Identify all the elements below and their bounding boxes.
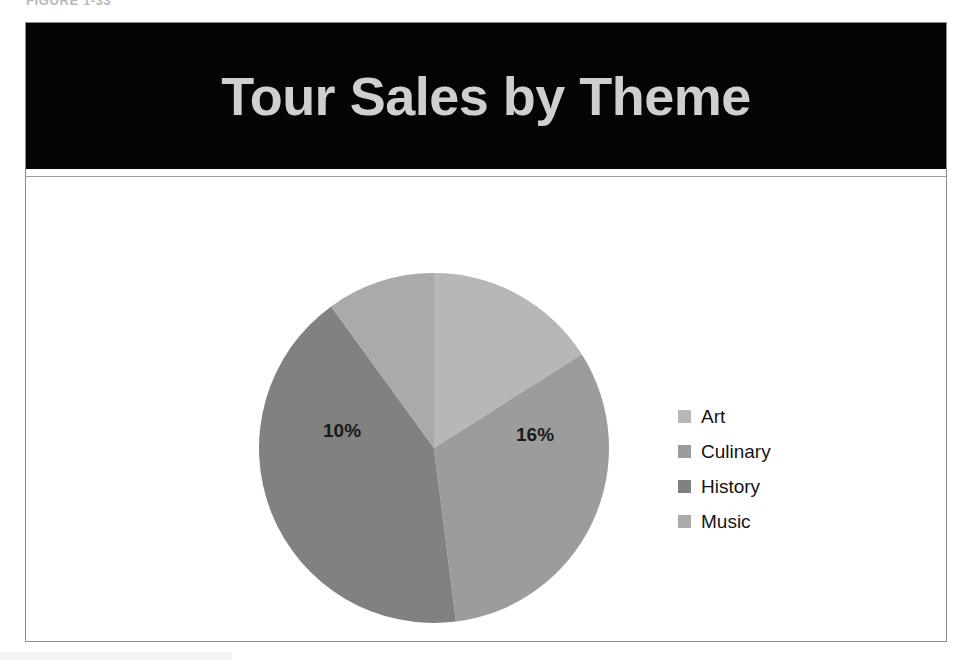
page-footer-edge — [0, 652, 232, 660]
legend-swatch-icon-culinary — [678, 445, 691, 458]
chart-legend: Art Culinary History Music — [678, 399, 848, 539]
pie-chart — [258, 272, 610, 624]
legend-swatch-icon-art — [678, 410, 691, 423]
legend-label-culinary: Culinary — [701, 442, 771, 461]
legend-swatch-icon-music — [678, 515, 691, 528]
slide-frame: Tour Sales by Theme 10% 16% 32% 42% — [25, 22, 947, 642]
legend-swatch-icon-history — [678, 480, 691, 493]
pie-chart-svg — [258, 272, 610, 624]
figure-caption: FIGURE 1-33 — [26, 0, 111, 8]
legend-item-history[interactable]: History — [678, 469, 848, 504]
legend-label-music: Music — [701, 512, 751, 531]
plot-area: 10% 16% 32% 42% Art Culinary History Mus… — [26, 177, 946, 641]
data-label-art: 16% — [516, 424, 554, 446]
legend-item-music[interactable]: Music — [678, 504, 848, 539]
legend-item-culinary[interactable]: Culinary — [678, 434, 848, 469]
data-label-music: 10% — [323, 420, 361, 442]
chart-title: Tour Sales by Theme — [221, 65, 751, 127]
pie-slices — [259, 273, 609, 623]
title-band: Tour Sales by Theme — [26, 23, 946, 169]
legend-label-art: Art — [701, 407, 725, 426]
legend-label-history: History — [701, 477, 760, 496]
legend-item-art[interactable]: Art — [678, 399, 848, 434]
